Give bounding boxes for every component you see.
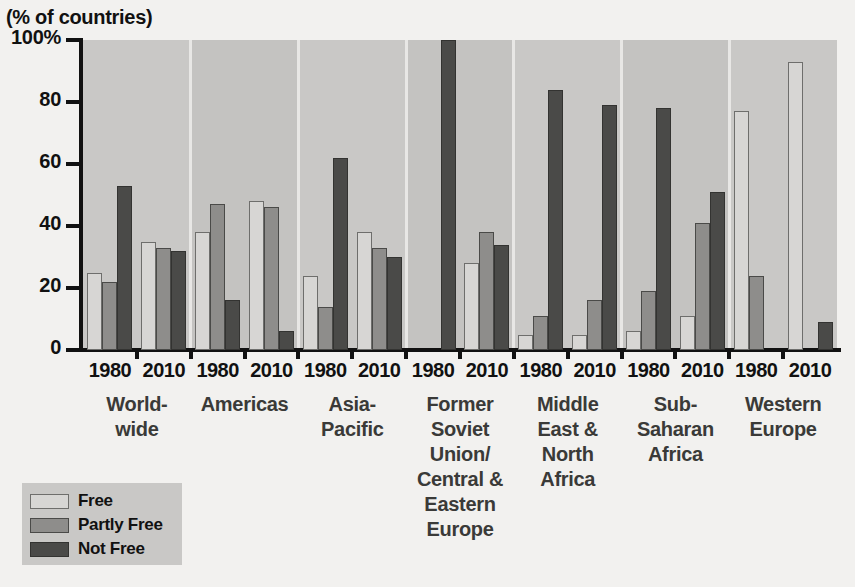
bar-not-free <box>279 331 294 350</box>
y-axis-tick-label: 100% <box>11 26 61 49</box>
region-label-line: Central & <box>406 467 514 492</box>
x-axis-tick <box>781 350 785 359</box>
x-axis-year-label: 2010 <box>568 359 622 382</box>
bar-not-free <box>117 186 132 350</box>
region-label-line: Former <box>406 392 514 417</box>
x-axis-year-label: 2010 <box>245 359 299 382</box>
region-label-line: Union/ <box>406 442 514 467</box>
region-label-line: East & <box>514 417 622 442</box>
x-axis-year-label: 2010 <box>352 359 406 382</box>
region-label-line: Middle <box>514 392 622 417</box>
bar-partly-free <box>749 276 764 350</box>
y-axis-tick <box>66 38 83 42</box>
bar-free <box>249 201 264 350</box>
bar-free <box>680 316 695 350</box>
x-axis-region-label: Americas <box>191 392 299 417</box>
region-label-line: Europe <box>729 417 837 442</box>
y-axis-tick <box>66 162 83 166</box>
bar-free <box>788 62 803 350</box>
bar-not-free <box>171 251 186 350</box>
bar-not-free <box>387 257 402 350</box>
x-axis-tick <box>296 350 300 359</box>
region-label-line: Asia- <box>298 392 406 417</box>
region-label-line: Americas <box>191 392 299 417</box>
x-axis-tick <box>243 350 247 359</box>
chart-legend: FreePartly FreeNot Free <box>22 483 182 565</box>
x-axis-tick <box>458 350 462 359</box>
plot-band-separator <box>620 40 623 350</box>
bar-free <box>195 232 210 350</box>
y-axis-tick <box>66 348 83 352</box>
bar-not-free <box>710 192 725 350</box>
bar-partly-free <box>587 300 602 350</box>
bar-free <box>626 331 641 350</box>
bar-free <box>518 335 533 351</box>
bar-partly-free <box>695 223 710 350</box>
region-label-line: wide <box>83 417 191 442</box>
plot-band-separator <box>189 40 192 350</box>
bar-free <box>303 276 318 350</box>
bar-partly-free <box>641 291 656 350</box>
x-axis-year-label: 2010 <box>783 359 837 382</box>
x-axis-year-label: 1980 <box>729 359 783 382</box>
region-label-line: World- <box>83 392 191 417</box>
x-axis-year-label: 1980 <box>406 359 460 382</box>
region-label-line: Europe <box>406 517 514 542</box>
bar-not-free <box>656 108 671 350</box>
y-axis-tick-label: 0 <box>50 336 61 359</box>
x-axis-tick <box>673 350 677 359</box>
bar-free <box>357 232 372 350</box>
bar-free <box>141 242 156 351</box>
bar-not-free <box>602 105 617 350</box>
region-label-line: Eastern <box>406 492 514 517</box>
bar-not-free <box>441 40 456 350</box>
x-axis-year-label: 2010 <box>137 359 191 382</box>
y-axis-tick <box>66 224 83 228</box>
x-axis-year-label: 1980 <box>83 359 137 382</box>
legend-swatch-not-free <box>30 542 69 557</box>
x-axis-region-label: WesternEurope <box>729 392 837 442</box>
bar-not-free <box>494 245 509 350</box>
bar-free <box>572 335 587 351</box>
y-axis-tick-label: 60 <box>39 150 61 173</box>
bar-free <box>464 263 479 350</box>
x-axis-tick <box>404 350 408 359</box>
x-axis-region-label: Asia-Pacific <box>298 392 406 442</box>
x-axis-region-label: MiddleEast &NorthAfrica <box>514 392 622 492</box>
x-axis-region-label: FormerSovietUnion/Central &EasternEurope <box>406 392 514 542</box>
bar-partly-free <box>533 316 548 350</box>
x-axis-tick <box>135 350 139 359</box>
x-axis-tick <box>189 350 193 359</box>
region-label-line: Saharan <box>622 417 730 442</box>
bar-not-free <box>225 300 240 350</box>
bar-partly-free <box>479 232 494 350</box>
x-axis-tick <box>727 350 731 359</box>
plot-band-separator <box>728 40 731 350</box>
x-axis-year-label: 1980 <box>622 359 676 382</box>
x-axis-year-label: 1980 <box>298 359 352 382</box>
legend-swatch-partly-free <box>30 518 69 533</box>
region-label-line: Western <box>729 392 837 417</box>
x-axis-tick <box>566 350 570 359</box>
x-axis-tick <box>620 350 624 359</box>
x-axis-tick <box>350 350 354 359</box>
bar-not-free <box>548 90 563 350</box>
y-axis-tick-label: 80 <box>39 88 61 111</box>
bar-not-free <box>333 158 348 350</box>
legend-label-free: Free <box>78 491 113 511</box>
x-axis-year-label: 1980 <box>191 359 245 382</box>
plot-band-separator <box>512 40 515 350</box>
region-label-line: North <box>514 442 622 467</box>
bar-not-free <box>818 322 833 350</box>
y-axis-line <box>79 38 83 352</box>
x-axis-region-label: Sub-SaharanAfrica <box>622 392 730 467</box>
y-axis-tick <box>66 286 83 290</box>
x-axis-region-label: World-wide <box>83 392 191 442</box>
y-axis-tick-label: 40 <box>39 212 61 235</box>
bar-partly-free <box>102 282 117 350</box>
bar-free <box>734 111 749 350</box>
y-axis-tick <box>66 100 83 104</box>
plot-band-separator <box>405 40 408 350</box>
bar-partly-free <box>210 204 225 350</box>
bar-free <box>87 273 102 351</box>
